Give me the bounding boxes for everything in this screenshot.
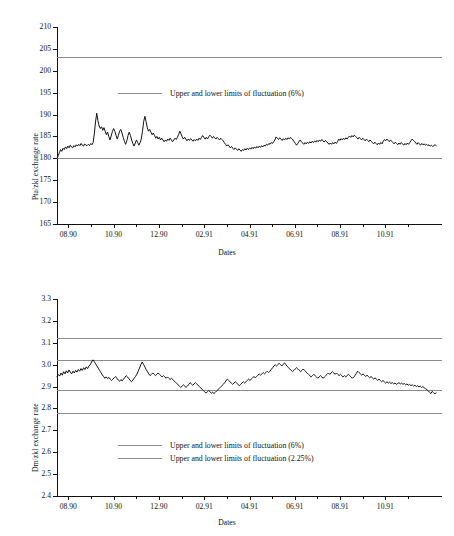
legend-line-swatch [118,93,162,94]
data-series-line [57,360,436,394]
x-axis-tick [114,224,115,228]
x-axis-title-top: Dates [0,248,454,257]
x-axis-tick-label: 08.91 [332,231,349,239]
x-axis-tick-label: 08.91 [332,503,349,511]
x-axis-tick [68,496,69,500]
x-axis-tick [295,496,296,500]
chart-panel-bottom: Dm/zkl exchange rate Upper and lower lim… [0,268,454,536]
y-axis-tick-label: 210 [40,23,51,31]
x-axis-tick [340,224,341,228]
x-axis-minor-tick [136,224,137,227]
x-axis-tick [204,496,205,500]
x-axis-minor-tick [91,496,92,499]
legend-label: Upper and lower limits of fluctuation (2… [170,453,314,464]
x-axis-tick [250,224,251,228]
y-axis-tick-label: 3.0 [42,361,52,369]
x-axis-minor-tick [317,224,318,227]
y-axis-tick-label: 190 [40,111,51,119]
x-axis-minor-tick [272,496,273,499]
x-axis-tick-label: 08.90 [60,503,77,511]
x-axis-tick [250,496,251,500]
x-axis-minor-tick [363,224,364,227]
x-axis-tick-label: 12.90 [150,503,167,511]
x-axis-tick-label: 08.90 [60,231,77,239]
y-axis-title-bottom: Dm/zkl exchange rate [31,403,40,472]
y-axis-tick-label: 3.2 [42,317,52,325]
x-axis-minor-tick [363,496,364,499]
x-axis-tick-label: 02.91 [196,231,213,239]
y-axis-tick [53,496,57,497]
plot-area-bottom [57,299,442,496]
chart-panel-top: Pta/zkl exchange rate Upper and lower li… [0,0,454,268]
y-axis-tick-label: 3.3 [42,295,52,303]
y-axis-tick-label: 2.9 [42,383,52,391]
y-axis-tick-label: 175 [40,176,51,184]
y-axis-tick-label: 185 [40,132,51,140]
y-axis-tick-label: 2.4 [42,492,52,500]
legend-label: Upper and lower limits of fluctuation (6… [170,440,304,451]
data-series-line [57,113,436,158]
y-axis-title-top: Pta/zkl exchange rate [31,133,40,200]
x-axis-minor-tick [227,496,228,499]
x-axis-minor-tick [227,224,228,227]
x-axis-tick [295,224,296,228]
x-axis-tick [159,224,160,228]
x-axis-tick-label: 10.91 [377,231,394,239]
x-axis-tick [385,224,386,228]
y-axis-tick-label: 205 [40,45,51,53]
x-axis-minor-tick [272,224,273,227]
x-axis-minor-tick [136,496,137,499]
y-axis-tick-label: 200 [40,67,51,75]
x-axis-tick-label: 06.91 [286,503,303,511]
x-axis-minor-tick [408,496,409,499]
x-axis-title-bottom: Dates [0,518,454,527]
x-axis-minor-tick [408,224,409,227]
x-axis-tick-label: 10.90 [105,231,122,239]
y-axis-tick-label: 2.5 [42,470,52,478]
x-axis-minor-tick [182,224,183,227]
y-axis-tick [53,224,57,225]
legend-line-swatch [118,458,162,459]
x-axis-tick-label: 02.91 [196,503,213,511]
y-axis-tick-label: 3.1 [42,339,52,347]
x-axis-tick [385,496,386,500]
y-axis-tick-label: 180 [40,154,51,162]
y-axis-tick-label: 2.8 [42,404,52,412]
x-axis-tick [340,496,341,500]
x-axis-tick-label: 12.90 [150,231,167,239]
legend-label: Upper and lower limits of fluctuation (6… [170,88,304,99]
x-axis-tick [204,224,205,228]
series-svg [57,27,442,224]
y-axis-tick-label: 195 [40,89,51,97]
x-axis-minor-tick [182,496,183,499]
x-axis-tick-label: 04.91 [241,503,258,511]
series-svg [57,299,442,496]
x-axis-tick-label: 10.91 [377,503,394,511]
x-axis-tick-label: 04.91 [241,231,258,239]
exchange-rate-figure: Pta/zkl exchange rate Upper and lower li… [0,0,454,536]
x-axis-minor-tick [91,224,92,227]
x-axis-minor-tick [317,496,318,499]
y-axis-tick-label: 2.6 [42,448,52,456]
y-axis-tick-label: 165 [40,220,51,228]
legend-line-swatch [118,445,162,446]
y-axis-tick-label: 2.7 [42,426,52,434]
plot-area-top [57,27,442,224]
x-axis-tick [159,496,160,500]
x-axis-tick [68,224,69,228]
x-axis-tick [114,496,115,500]
x-axis-tick-label: 06.91 [286,231,303,239]
x-axis-tick-label: 10.90 [105,503,122,511]
y-axis-tick-label: 170 [40,198,51,206]
